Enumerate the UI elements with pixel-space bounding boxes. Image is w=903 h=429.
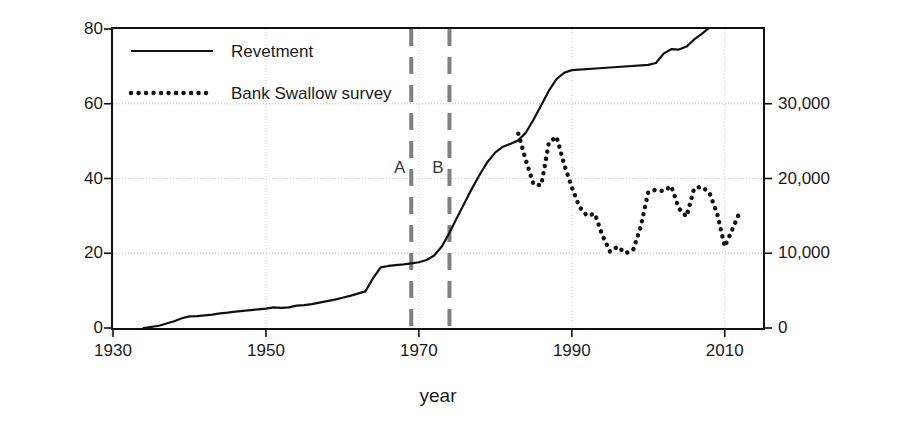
series-line-revetment xyxy=(144,29,718,328)
legend-label-1: Bank Swallow survey xyxy=(231,84,392,103)
annotation-label-A: A xyxy=(394,158,406,177)
x-axis-tick-label: 1990 xyxy=(532,341,612,361)
x-axis-title: year xyxy=(111,385,765,407)
series-line-bank-swallow-survey xyxy=(518,134,740,254)
x-axis-tick-label: 1970 xyxy=(379,341,459,361)
x-axis-tick-label: 1930 xyxy=(73,341,153,361)
plot-canvas: ABRevetmentBank Swallow survey xyxy=(113,29,763,328)
x-axis-tick-label: 2010 xyxy=(685,341,765,361)
x-axis-tick-label: 1950 xyxy=(226,341,306,361)
annotation-label-B: B xyxy=(432,158,443,177)
plot-area: ABRevetmentBank Swallow survey xyxy=(111,27,765,330)
legend-label-0: Revetment xyxy=(231,42,313,61)
chart-figure: Revetment length (km) Bank Swallow burro… xyxy=(0,0,903,429)
